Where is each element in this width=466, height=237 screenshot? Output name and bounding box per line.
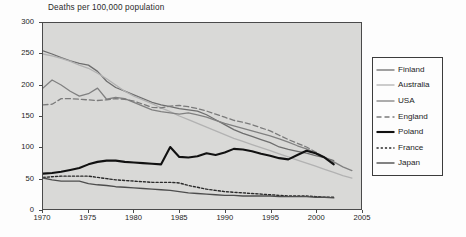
x-axis-tick-label: 1990 [205, 213, 245, 222]
y-axis-tick-mark [39, 22, 42, 23]
x-axis-tick-mark [179, 210, 180, 213]
y-axis-tick-mark [39, 53, 42, 54]
y-axis-tick-label: 100 [0, 142, 34, 151]
legend-item-japan[interactable]: Japan [376, 156, 442, 172]
x-axis-tick-label: 1975 [68, 213, 108, 222]
y-axis-tick-mark [39, 85, 42, 86]
x-axis-tick-label: 1985 [159, 213, 199, 222]
y-axis-tick-mark [39, 147, 42, 148]
legend-item-usa[interactable]: USA [376, 93, 442, 109]
legend-item-australia[interactable]: Australia [376, 78, 442, 94]
y-axis-tick-label: 300 [0, 17, 34, 26]
x-axis-tick-mark [225, 210, 226, 213]
legend-item-label: Japan [398, 159, 420, 167]
legend-item-poland[interactable]: Poland [376, 124, 442, 140]
y-axis-tick-label: 150 [0, 111, 34, 120]
x-axis-tick-label: 1970 [22, 213, 62, 222]
x-axis-tick-mark [271, 210, 272, 213]
legend-item-label: England [398, 113, 428, 121]
page-title: Deaths per 100,000 population [48, 3, 164, 12]
legend-item-label: Poland [398, 128, 423, 136]
legend-item-france[interactable]: France [376, 140, 442, 156]
series-line-france [43, 176, 334, 197]
legend-item-label: USA [398, 97, 415, 105]
legend-item-label: France [398, 144, 423, 152]
legend-item-label: Australia [398, 81, 430, 89]
series-line-poland [43, 147, 334, 174]
x-axis-tick-label: 2000 [296, 213, 336, 222]
legend-swatch-icon [376, 112, 395, 122]
x-axis-tick-label: 1995 [251, 213, 291, 222]
x-axis-tick-mark [316, 210, 317, 213]
y-axis-tick-label: 200 [0, 80, 34, 89]
series-canvas [43, 23, 361, 209]
legend-swatch-icon [376, 80, 395, 90]
legend-swatch-icon [376, 158, 395, 168]
x-axis-tick-mark [88, 210, 89, 213]
x-axis-tick-mark [362, 210, 363, 213]
y-axis-tick-mark [39, 179, 42, 180]
line-chart-figure: Deaths per 100,000 population FinlandAus… [0, 0, 466, 237]
y-axis-tick-label: 250 [0, 48, 34, 57]
plot-area [42, 22, 362, 210]
legend-item-england[interactable]: England [376, 109, 442, 125]
legend-swatch-icon [376, 127, 395, 137]
series-line-england [43, 99, 334, 163]
y-axis-tick-label: 50 [0, 174, 34, 183]
x-axis-tick-label: 2005 [342, 213, 382, 222]
legend-swatch-icon [376, 96, 395, 106]
y-axis-tick-mark [39, 116, 42, 117]
legend: FinlandAustraliaUSAEnglandPolandFranceJa… [372, 57, 443, 176]
legend-item-label: Finland [398, 66, 425, 74]
legend-swatch-icon [376, 143, 395, 153]
legend-swatch-icon [376, 65, 395, 75]
series-line-australia [43, 54, 352, 178]
series-line-japan [43, 178, 334, 198]
x-axis-tick-label: 1980 [113, 213, 153, 222]
x-axis-tick-mark [42, 210, 43, 213]
x-axis-tick-mark [133, 210, 134, 213]
legend-item-finland[interactable]: Finland [376, 62, 442, 78]
